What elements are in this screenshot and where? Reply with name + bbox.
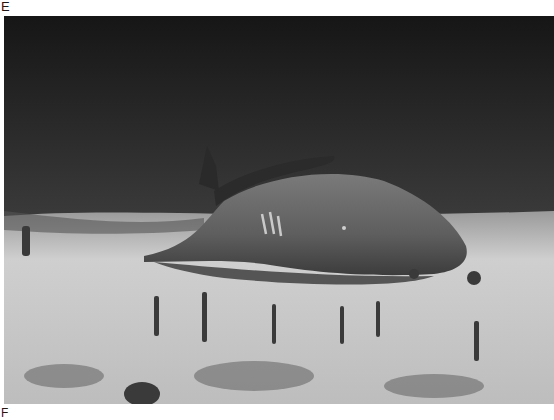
- photo-illustration: [4, 16, 554, 404]
- panel-label-f: F: [1, 407, 8, 420]
- panel-label-e: E: [1, 0, 10, 13]
- seafloor-ray-photo: [4, 16, 554, 404]
